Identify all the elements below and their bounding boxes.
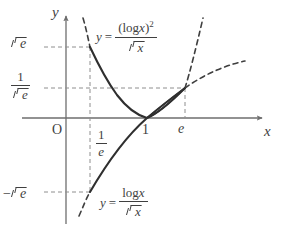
fraction-numerator: 1 [11,70,30,84]
fraction: 1 e [96,128,107,158]
origin-label: O [52,123,62,137]
curve-squared-log-solid [90,47,185,118]
x-tick-inv-e: 1 e [96,128,107,158]
radical-sign-icon: e [11,186,26,201]
fraction-bar [115,37,157,38]
radical-sign-icon: e [11,36,26,51]
fraction-denominator: e [11,87,30,102]
radical-sign-icon: x [126,204,141,219]
fraction-denominator: e [96,145,107,159]
log-operator: log [122,20,139,35]
equation-lhs: y [100,195,106,211]
fraction-denominator: x [115,39,157,55]
radical-sign-icon: x [129,40,144,55]
exponent: 2 [149,19,154,29]
equation-lhs: y [96,29,102,45]
radical-sign-icon: e [13,87,28,102]
fraction: (logx)2 x [115,20,157,55]
equation-lower-curve: y = logx x [100,186,148,220]
y-axis-label: y [52,5,59,20]
math-figure: y x O e 1 e −e 1 e 1 e y = (logx)2 [0,0,282,232]
fraction-numerator: (logx)2 [115,20,157,36]
y-tick-sqrt-e: e [11,36,26,51]
y-tick-inv-sqrt-e: 1 e [11,70,30,101]
y-tick-neg-sqrt-e: −e [3,186,26,201]
fraction: logx x [119,186,147,220]
fraction: 1 e [11,70,30,101]
minus-sign-icon: − [3,186,11,201]
x-axis-label: x [264,124,271,139]
fraction-numerator: logx [119,186,147,200]
curve-log-dashed-right [185,61,245,88]
fraction-denominator: x [119,203,147,219]
radicand: x [135,204,141,219]
fraction-bar [119,201,147,202]
variable-x: x [139,185,145,200]
fraction-bar [11,85,30,86]
equals-sign: = [108,195,117,211]
fraction-numerator: 1 [96,128,107,142]
x-tick-e: e [178,122,184,136]
equals-sign: = [104,29,113,45]
radicand: x [138,40,144,55]
log-operator: log [122,185,139,200]
curve-squared-log-dashed-left [83,18,90,47]
shaded-area-between-curves [147,88,185,118]
equation-upper-curve: y = (logx)2 x [96,20,157,55]
curve-log-dashed-left [79,192,90,216]
x-tick-one: 1 [142,123,149,137]
